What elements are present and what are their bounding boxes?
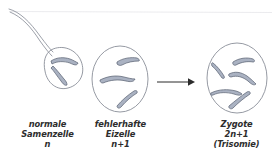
zygote-caption: Zygote 2n+1 (Trisomie) (194, 119, 275, 150)
zygote-cell (207, 43, 267, 113)
egg-cell (92, 46, 148, 112)
chromosome-zygote-1 (212, 63, 225, 79)
fertilization-arrow (157, 78, 195, 86)
chromosome-egg-1 (117, 58, 139, 66)
egg-caption: fehlerhafte Eizelle n+1 (78, 119, 163, 150)
sperm-tail-upper-stroke (9, 9, 53, 52)
chromosome-egg-2 (100, 76, 135, 83)
chromosome-egg-3 (117, 91, 137, 108)
diagram-canvas: normale Samenzelle n fehlerhafte Eizelle… (0, 0, 275, 163)
chromosome-sperm-2 (51, 66, 67, 85)
chromosome-sperm-1 (51, 58, 78, 65)
sperm-tail-lower-stroke (10, 12, 52, 56)
chromosome-zygote-2 (233, 58, 255, 65)
chromosome-zygote-3 (229, 72, 256, 85)
sperm-cell (9, 9, 83, 89)
scan-artifact-line (10, 12, 272, 13)
chromosome-zygote-4 (211, 90, 242, 96)
arrow-head (188, 78, 195, 86)
